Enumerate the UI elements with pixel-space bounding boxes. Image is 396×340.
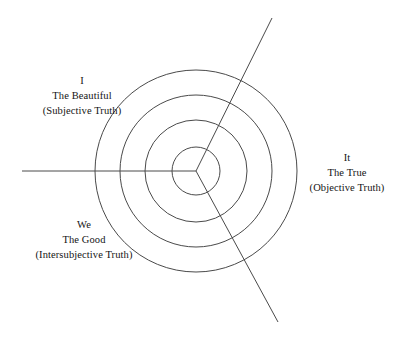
sector-label-lower-left: We The Good (Intersubjective Truth) [0,218,168,263]
sector-label-lower-left-value: The Good [0,233,168,248]
ray-northeast [196,18,272,171]
sector-label-upper-left: I The Beautiful (Subjective Truth) [0,74,164,119]
sector-label-right: It The True (Objective Truth) [298,151,396,196]
sector-label-right-truth: (Objective Truth) [298,181,396,196]
sector-label-lower-left-truth: (Intersubjective Truth) [0,248,168,263]
sector-label-upper-left-truth: (Subjective Truth) [0,104,164,119]
sector-label-right-value: The True [298,166,396,181]
sector-label-lower-left-pronoun: We [0,218,168,233]
sector-divider-rays-group [22,18,278,322]
sector-label-upper-left-pronoun: I [0,74,164,89]
sector-label-right-pronoun: It [298,151,396,166]
sector-label-upper-left-value: The Beautiful [0,89,164,104]
